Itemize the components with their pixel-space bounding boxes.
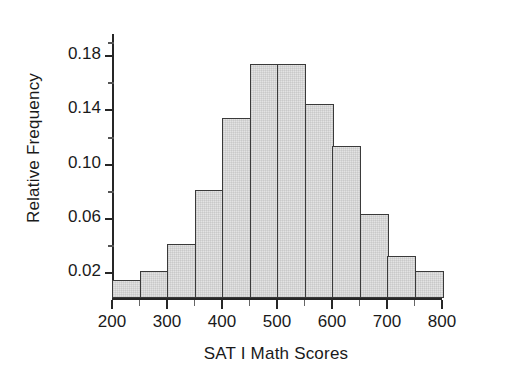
plot-area: 0.020.060.100.140.18 2003004005006007008…: [112, 34, 442, 300]
histogram-figure: Relative Frequency 0.020.060.100.140.18 …: [0, 0, 520, 388]
y-tick-label: 0.14: [68, 98, 101, 118]
histogram-bar: [305, 104, 334, 298]
x-tick-label: 800: [428, 312, 456, 332]
histogram-bar: [140, 271, 169, 298]
x-tick-minor: [304, 300, 305, 306]
x-tick-minor: [414, 300, 415, 306]
x-tick-label: 700: [373, 312, 401, 332]
y-axis-title: Relative Frequency: [14, 0, 54, 298]
x-axis-title: SAT I Math Scores: [117, 344, 435, 364]
x-tick-label: 500: [263, 312, 291, 332]
x-tick-mark: [166, 300, 168, 309]
x-tick-mark: [111, 300, 113, 309]
y-tick-label: 0.02: [68, 261, 101, 281]
y-tick-label: 0.10: [68, 153, 101, 173]
x-tick-minor: [249, 300, 250, 306]
x-tick-label: 300: [153, 312, 181, 332]
histogram-bar: [112, 280, 141, 298]
x-tick-label: 600: [318, 312, 346, 332]
x-tick-mark: [221, 300, 223, 309]
y-tick-label: 0.18: [68, 44, 101, 64]
y-tick-label: 0.06: [68, 207, 101, 227]
x-tick-minor: [139, 300, 140, 306]
histogram-bar: [222, 118, 251, 298]
x-tick-mark: [276, 300, 278, 309]
x-axis-ticks: 200300400500600700800: [112, 300, 442, 344]
histogram-bar: [332, 146, 361, 298]
x-tick-mark: [386, 300, 388, 309]
histogram-bar: [387, 256, 416, 298]
x-tick-label: 400: [208, 312, 236, 332]
histogram-bar: [167, 244, 196, 298]
x-tick-mark: [441, 300, 443, 309]
x-tick-minor: [359, 300, 360, 306]
histogram-bar: [360, 214, 389, 298]
x-tick-mark: [331, 300, 333, 309]
y-axis-ticks: 0.020.060.100.140.18: [52, 34, 114, 300]
histogram-bars: [112, 34, 442, 298]
x-tick-label: 200: [98, 312, 126, 332]
histogram-bar: [277, 64, 306, 298]
histogram-bar: [195, 190, 224, 298]
histogram-bar: [415, 271, 444, 298]
x-tick-minor: [194, 300, 195, 306]
histogram-bar: [250, 64, 279, 298]
